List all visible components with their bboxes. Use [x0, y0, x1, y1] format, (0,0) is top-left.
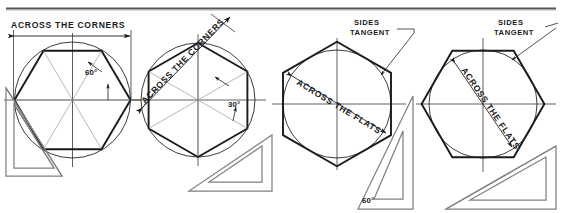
label-tangent-3: TANGENT	[350, 28, 390, 37]
panel-hexagon-across-corners-vertex-top: ACROSS THE CORNERS 30°	[132, 14, 272, 191]
label-across-corners-1: ACROSS THE CORNERS	[11, 20, 125, 30]
label-tangent-4: TANGENT	[494, 28, 534, 37]
label-angle-60-panel1: 60°	[85, 68, 97, 77]
label-angle-60-panel3: 60°	[362, 196, 374, 205]
centerlines-2	[132, 34, 266, 166]
panel-hexagon-across-corners-flat-top: ACROSS THE CORNERS 60°	[4, 20, 141, 176]
panel-hexagon-across-flats-flat-top: SIDES TANGENT ACROSS THE FLATS 60°	[272, 18, 414, 209]
label-sides-4: SIDES	[498, 18, 524, 27]
label-across-flats-4: ACROSS THE FLATS	[459, 66, 522, 152]
label-across-flats-3: ACROSS THE FLATS	[295, 77, 383, 136]
angle-arrows-30-panel2	[215, 77, 236, 121]
label-across-corners-2: ACROSS THE CORNERS	[139, 16, 226, 105]
label-angle-30-panel2: 30°	[228, 100, 240, 109]
panel-hexagon-across-flats-vertex-top: SIDES TANGENT ACROSS THE FLATS	[416, 18, 558, 209]
top-divider-rule	[6, 9, 556, 11]
drafting-triangle-2	[189, 135, 272, 191]
technical-drawing-canvas: ACROSS THE CORNERS 60°	[0, 0, 562, 213]
drafting-triangle-3	[358, 96, 413, 209]
hexagon-construction-plate: ACROSS THE CORNERS 60°	[0, 0, 562, 213]
label-sides-3: SIDES	[354, 18, 380, 27]
